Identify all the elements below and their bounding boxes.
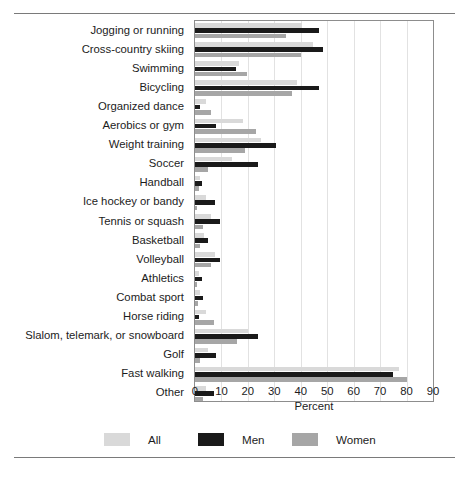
- bar-all: [195, 195, 206, 200]
- bar-group: [195, 41, 433, 60]
- category-label: Soccer: [0, 157, 188, 169]
- bar-all: [195, 252, 215, 257]
- bar-women: [195, 282, 197, 287]
- category-label: Weight training: [0, 138, 188, 150]
- x-axis-title: Percent: [194, 400, 434, 412]
- bar-all: [195, 310, 206, 315]
- bar-men: [195, 181, 202, 186]
- bar-women: [195, 72, 247, 77]
- chart-legend: AllMenWomen: [0, 432, 469, 452]
- bar-all: [195, 214, 211, 219]
- bar-women: [195, 320, 214, 325]
- x-tick-label: 20: [242, 384, 255, 398]
- bar-women: [195, 358, 200, 363]
- category-label: Cross-country skiing: [0, 43, 188, 55]
- bar-all: [195, 80, 297, 85]
- bar-group: [195, 117, 433, 136]
- x-tick-label: 50: [321, 384, 334, 398]
- bar-all: [195, 348, 208, 353]
- bar-women: [195, 110, 211, 115]
- x-tick-label: 80: [400, 384, 413, 398]
- bar-men: [195, 200, 215, 205]
- category-label: Bicycling: [0, 81, 188, 93]
- bar-all: [195, 329, 248, 334]
- bar-all: [195, 367, 399, 372]
- bar-men: [195, 28, 319, 33]
- x-tick-label: 40: [294, 384, 307, 398]
- bar-all: [195, 233, 204, 238]
- bar-group: [195, 251, 433, 270]
- category-label: Swimming: [0, 62, 188, 74]
- bar-men: [195, 143, 276, 148]
- bar-group: [195, 232, 433, 251]
- bar-group: [195, 213, 433, 232]
- bar-group: [195, 270, 433, 289]
- bar-women: [195, 53, 301, 58]
- category-label: Jogging or running: [0, 24, 188, 36]
- bar-chart: Jogging or runningCross-country skiingSw…: [0, 20, 469, 420]
- bar-group: [195, 155, 433, 174]
- bar-all: [195, 42, 313, 47]
- x-tick-label: 0: [192, 384, 198, 398]
- category-label: Tennis or squash: [0, 215, 188, 227]
- bar-men: [195, 315, 199, 320]
- category-label: Aerobics or gym: [0, 119, 188, 131]
- bar-men: [195, 277, 202, 282]
- gridline: [433, 21, 434, 401]
- bar-all: [195, 157, 232, 162]
- category-label: Horse riding: [0, 310, 188, 322]
- x-axis-ticks: 0102030405060708090: [194, 384, 434, 400]
- category-label: Combat sport: [0, 291, 188, 303]
- category-label: Basketball: [0, 234, 188, 246]
- bar-group: [195, 327, 433, 346]
- bar-group: [195, 22, 433, 41]
- bar-men: [195, 258, 220, 263]
- bar-women: [195, 129, 256, 134]
- top-rule: [14, 13, 455, 14]
- bar-men: [195, 334, 258, 339]
- bar-women: [195, 167, 208, 172]
- bar-group: [195, 289, 433, 308]
- bar-women: [195, 339, 237, 344]
- bar-women: [195, 301, 198, 306]
- bar-women: [195, 91, 292, 96]
- x-tick-label: 90: [427, 384, 440, 398]
- bar-all: [195, 61, 239, 66]
- bar-women: [195, 263, 211, 268]
- plot-area: [194, 20, 434, 402]
- category-label: Slalom, telemark, or snowboard: [0, 329, 188, 341]
- legend-label: Women: [336, 432, 376, 447]
- bar-all: [195, 138, 261, 143]
- bar-all: [195, 271, 199, 276]
- bar-women: [195, 206, 197, 211]
- category-label: Golf: [0, 348, 188, 360]
- bar-men: [195, 105, 200, 110]
- x-tick-label: 10: [215, 384, 228, 398]
- bar-men: [195, 162, 258, 167]
- bar-all: [195, 119, 243, 124]
- category-label: Athletics: [0, 272, 188, 284]
- bar-men: [195, 238, 208, 243]
- category-label: Volleyball: [0, 253, 188, 265]
- bar-men: [195, 67, 236, 72]
- bar-men: [195, 219, 220, 224]
- bar-women: [195, 148, 245, 153]
- category-label: Handball: [0, 176, 188, 188]
- bar-group: [195, 346, 433, 365]
- bar-men: [195, 372, 393, 377]
- bar-group: [195, 193, 433, 212]
- bar-women: [195, 186, 199, 191]
- bar-men: [195, 353, 216, 358]
- legend-swatch-men: [198, 433, 224, 446]
- bar-men: [195, 47, 323, 52]
- bar-group: [195, 136, 433, 155]
- legend-swatch-all: [104, 433, 130, 446]
- category-label: Fast walking: [0, 367, 188, 379]
- bar-group: [195, 98, 433, 117]
- bar-all: [195, 290, 200, 295]
- category-label: Organized dance: [0, 100, 188, 112]
- figure: Jogging or runningCross-country skiingSw…: [0, 0, 469, 479]
- bar-men: [195, 296, 203, 301]
- bar-women: [195, 34, 286, 39]
- bar-group: [195, 60, 433, 79]
